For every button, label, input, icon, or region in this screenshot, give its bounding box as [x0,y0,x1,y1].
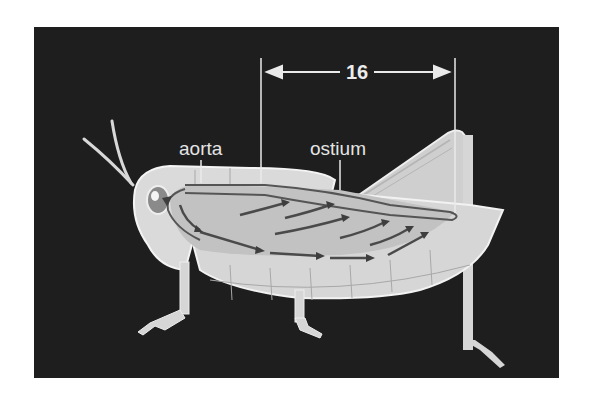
antennae [84,121,133,185]
measurement-label: 16 [346,62,368,82]
aorta-label: aorta [179,139,222,158]
grasshopper-illustration [0,0,594,405]
ostium-label: ostium [310,139,366,158]
